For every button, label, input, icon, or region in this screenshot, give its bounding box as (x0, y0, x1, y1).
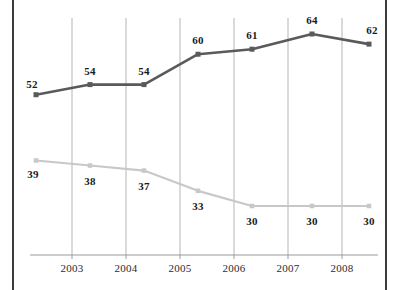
value-label-upper-series-1: 54 (84, 65, 95, 77)
marker-upper-series-4 (250, 47, 255, 52)
value-label-upper-series-3: 60 (192, 34, 203, 46)
x-axis-ticks (72, 255, 342, 259)
value-label-upper-series-6: 62 (366, 24, 377, 36)
x-tick-label-2007: 2007 (276, 262, 299, 274)
value-label-lower-series-5: 30 (306, 215, 317, 227)
x-tick-label-2004: 2004 (114, 262, 137, 274)
marker-lower-series-4 (250, 204, 255, 209)
marker-upper-series-0 (34, 92, 39, 97)
marker-upper-series-6 (367, 42, 372, 47)
x-tick-label-2005: 2005 (168, 262, 191, 274)
x-tick-label-2003: 2003 (60, 262, 83, 274)
marker-lower-series-6 (367, 204, 372, 209)
value-label-upper-series-2: 54 (138, 65, 149, 77)
value-label-lower-series-0: 39 (27, 168, 38, 180)
marker-lower-series-3 (196, 189, 201, 194)
x-tick-label-2008: 2008 (330, 262, 353, 274)
marker-upper-series-1 (88, 82, 93, 87)
x-tick-label-2006: 2006 (222, 262, 245, 274)
value-label-lower-series-3: 33 (192, 200, 203, 212)
marker-lower-series-2 (142, 168, 147, 173)
value-label-lower-series-4: 30 (246, 215, 257, 227)
chart-figure: 5254546061646239383733303030 20032004200… (0, 0, 399, 290)
value-label-upper-series-5: 64 (306, 14, 317, 26)
marker-lower-series-5 (310, 204, 315, 209)
value-label-upper-series-0: 52 (26, 78, 37, 90)
marker-lower-series-1 (88, 163, 93, 168)
marker-upper-series-2 (142, 82, 147, 87)
marker-upper-series-5 (310, 32, 315, 37)
marker-lower-series-0 (34, 158, 39, 163)
value-label-lower-series-1: 38 (84, 175, 95, 187)
value-label-lower-series-2: 37 (138, 180, 149, 192)
marker-upper-series-3 (196, 52, 201, 57)
value-label-lower-series-6: 30 (363, 215, 374, 227)
value-label-upper-series-4: 61 (246, 29, 257, 41)
